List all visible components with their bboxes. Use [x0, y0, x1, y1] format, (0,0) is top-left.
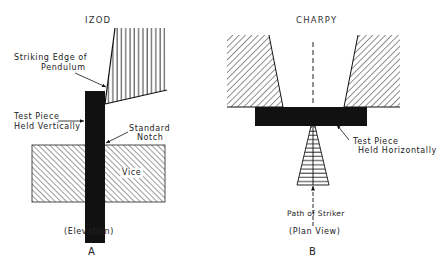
izod-test-piece — [85, 91, 105, 243]
path-of-striker-label: Path of Striker — [287, 209, 345, 219]
left-anvil — [227, 35, 283, 107]
striking-edge-arrow — [75, 73, 106, 87]
notch-arrow — [106, 132, 128, 143]
izod-title: IZOD — [85, 15, 111, 25]
vice-label: Vice — [120, 168, 143, 178]
charpy-test-piece — [255, 107, 367, 126]
right-anvil — [344, 35, 400, 107]
charpy-view-label: (Plan View) — [289, 227, 340, 237]
striker — [297, 126, 329, 185]
striking-edge-label-2: Pendulum — [41, 63, 86, 73]
charpy-letter: B — [309, 246, 316, 257]
izod-view-label: (Elevation) — [64, 227, 114, 237]
striking-edge-label-1: Striking Edge of — [14, 53, 87, 63]
izod-letter: A — [88, 246, 95, 257]
pendulum — [105, 28, 167, 104]
charpy-test-piece-arrow — [337, 125, 349, 140]
notch-label-2: Notch — [137, 133, 163, 143]
charpy-test-piece-label-2: Held Horizontally — [358, 146, 437, 156]
test-piece-label-2: Held Vertically — [14, 122, 81, 132]
charpy-title: CHARPY — [296, 15, 337, 25]
test-piece-label-1: Test Piece — [14, 112, 59, 122]
